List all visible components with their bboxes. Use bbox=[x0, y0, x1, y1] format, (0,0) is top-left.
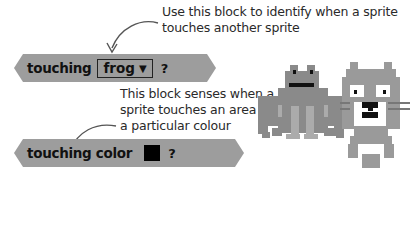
color-swatch[interactable] bbox=[144, 145, 160, 161]
question-mark: ? bbox=[168, 146, 176, 161]
cat-sprite-icon bbox=[340, 60, 418, 180]
touching-color-block[interactable]: touching color ? bbox=[14, 139, 244, 167]
block-label: touching color bbox=[27, 145, 132, 161]
frog-sprite-icon bbox=[258, 58, 348, 158]
